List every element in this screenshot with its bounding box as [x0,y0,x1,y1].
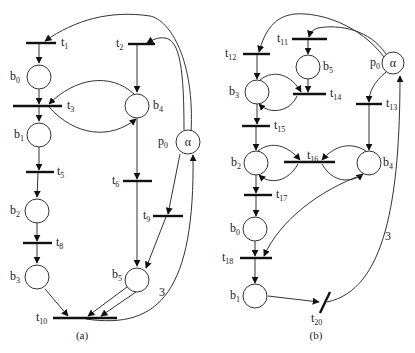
label-t6: t6 [112,173,119,189]
label-t3: t3 [67,98,74,114]
arc-t3-b4 [49,107,136,132]
place-b2[interactable] [244,151,268,175]
label-t13: t13 [386,96,397,112]
token-alpha-b: α [390,56,397,70]
petri-net-figure: t1 t2 t3 t5 t6 t8 t9 t10 b0 b1 b2 b3 b4 … [0,0,415,353]
label-b5: b5 [112,267,122,283]
place-b5[interactable] [125,268,149,292]
arc-weight-b: 3 [385,229,391,243]
label-t16: t16 [307,148,318,164]
place-b1[interactable] [27,123,51,147]
place-b0[interactable] [243,217,267,241]
label-t2: t2 [116,36,123,52]
label-b0: b0 [230,221,240,237]
label-t9: t9 [143,208,150,224]
arc-p0-t11 [309,27,386,54]
arc-p0-t2 [147,38,184,130]
label-t15: t15 [274,118,285,134]
label-b2: b2 [231,155,241,171]
label-p0: p0 [158,134,168,150]
label-t12: t12 [225,46,236,62]
place-b0[interactable] [27,65,51,89]
place-b2[interactable] [25,199,49,223]
place-b5[interactable] [296,55,320,79]
label-b3: b3 [229,84,239,100]
label-b4: b4 [383,155,393,171]
label-b5: b5 [323,59,333,75]
label-t20: t20 [311,311,322,327]
arc-p0-t9 [168,154,180,214]
arc-t16-b4 [322,164,363,180]
label-b2: b2 [10,203,20,219]
label-t17: t17 [276,187,287,203]
label-t18: t18 [222,250,233,266]
label-b1: b1 [230,288,240,304]
arc-p0-t1 [45,14,191,133]
panel-b: t11 t12 t13 t14 t15 t16 t17 t18 t20 b0 b… [222,14,404,342]
arc-t9-b5 [146,217,166,268]
token-alpha-a: α [185,135,192,149]
caption-a: (a) [76,329,89,342]
caption-b: (b) [310,329,323,342]
label-b3: b3 [10,269,20,285]
label-b0: b0 [10,69,20,85]
arc-weight-a: 3 [159,285,165,299]
label-t8: t8 [56,235,63,251]
transition-t20[interactable] [320,292,330,313]
label-t14: t14 [330,86,341,102]
place-b4[interactable] [125,94,149,118]
arc-p0-t13 [369,72,386,102]
label-t11: t11 [277,31,288,47]
place-b3[interactable] [245,80,269,104]
place-b3[interactable] [25,265,49,289]
label-t5: t5 [57,164,64,180]
panel-a: t1 t2 t3 t5 t6 t8 t9 t10 b0 b1 b2 b3 b4 … [10,14,200,342]
arc-b5-t10-2 [101,292,136,316]
label-p0: p0 [370,55,380,71]
arc-b3-t10 [45,289,68,316]
label-b1: b1 [14,127,24,143]
label-t1: t1 [61,35,68,51]
arc-b1-t20 [268,296,319,302]
label-t10: t10 [36,310,47,326]
place-b1[interactable] [243,284,267,308]
arc-b4-t3 [49,81,134,104]
place-b4[interactable] [357,151,381,175]
label-b4: b4 [153,98,163,114]
arc-t5-b2 [37,173,38,197]
